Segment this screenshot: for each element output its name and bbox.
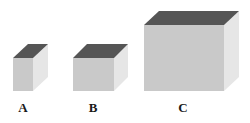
cube-a [13, 44, 48, 91]
figure-canvas: A B C [0, 0, 250, 123]
cube-c-label: C [178, 100, 187, 116]
cube-b-front [73, 58, 114, 91]
cube-a-front [13, 58, 33, 91]
cube-b [73, 44, 128, 91]
cubes-drawing [0, 0, 250, 123]
cube-a-label: A [18, 100, 27, 116]
cube-c-front [144, 25, 224, 91]
cube-c-side [224, 11, 239, 91]
cube-b-label: B [89, 100, 98, 116]
cube-c [144, 11, 239, 91]
cube-c-top [144, 11, 239, 25]
